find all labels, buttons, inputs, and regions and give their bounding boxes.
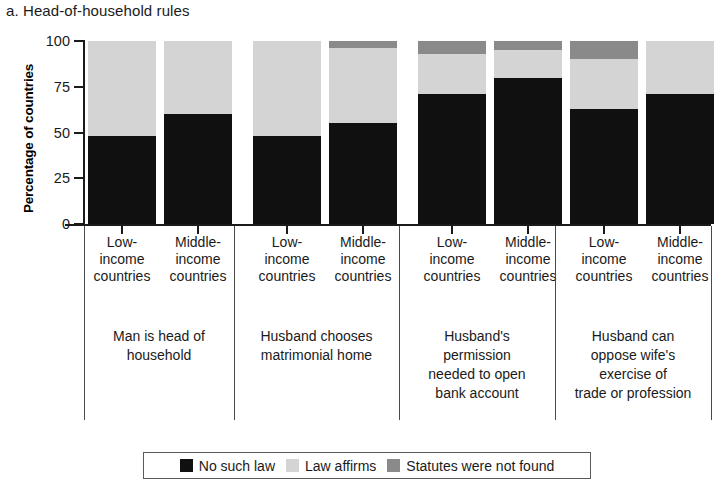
group-label: Husband'spermissionneeded to openbank ac… <box>392 327 562 403</box>
x-axis-category-label: Middle-incomecountries <box>313 234 413 285</box>
plot-area <box>84 41 711 224</box>
group-label-line: Husband can <box>548 327 718 346</box>
y-axis-tick-label: 100 <box>30 33 70 49</box>
bar-stack <box>88 41 156 224</box>
group-separator <box>399 226 400 420</box>
legend-swatch-icon <box>387 459 400 472</box>
group-label-line: trade or profession <box>548 384 718 403</box>
bar-segment-statutes-not-found <box>418 41 486 54</box>
legend-swatch-icon <box>286 459 299 472</box>
bar-segment-law-affirms <box>418 54 486 94</box>
x-axis-tick <box>197 226 199 234</box>
x-axis-category-label: Middle-incomecountries <box>148 234 248 285</box>
bar-segment-no-such-law <box>253 136 321 224</box>
bar-segment-no-such-law <box>164 114 232 224</box>
group-label-line: Man is head of <box>74 327 244 346</box>
y-axis-tick <box>74 223 84 225</box>
y-axis-tick-label: 0 <box>30 216 70 232</box>
bar-segment-no-such-law <box>418 94 486 224</box>
bar-segment-no-such-law <box>494 78 562 224</box>
bar-segment-law-affirms <box>164 41 232 114</box>
category-label-line: Middle- <box>148 234 248 251</box>
bar-segment-statutes-not-found <box>494 41 562 50</box>
group-label-line: matrimonial home <box>232 346 402 365</box>
x-axis-tick <box>121 226 123 234</box>
x-axis-tick <box>527 226 529 234</box>
bar-segment-no-such-law <box>570 109 638 224</box>
category-label-line: countries <box>148 268 248 285</box>
bar-segment-no-such-law <box>646 94 714 224</box>
legend-label: Law affirms <box>305 458 376 474</box>
bar-stack <box>646 41 714 224</box>
bar-segment-no-such-law <box>329 123 397 224</box>
y-axis-tick <box>74 132 84 134</box>
bar-segment-law-affirms <box>570 59 638 108</box>
y-axis-tick <box>74 177 84 179</box>
legend-item[interactable]: Statutes were not found <box>387 458 554 474</box>
bar-stack <box>494 41 562 224</box>
group-separator <box>711 226 712 420</box>
group-separator <box>555 226 556 420</box>
y-axis-tick-labels: 0255075100 <box>22 0 70 482</box>
category-label-line: countries <box>630 268 718 285</box>
x-axis-category-label: Middle-incomecountries <box>630 234 718 285</box>
bar-segment-law-affirms <box>253 41 321 136</box>
y-axis-tick-label: 75 <box>30 79 70 95</box>
bar-segment-law-affirms <box>494 50 562 77</box>
legend-label: Statutes were not found <box>406 458 554 474</box>
category-label-line: income <box>313 251 413 268</box>
legend-item[interactable]: No such law <box>180 458 275 474</box>
group-separator <box>234 226 235 420</box>
group-label-line: household <box>74 346 244 365</box>
category-label-line: income <box>148 251 248 268</box>
x-axis-tick <box>603 226 605 234</box>
category-label-line: Middle- <box>630 234 718 251</box>
x-axis-tick <box>451 226 453 234</box>
bar-stack <box>570 41 638 224</box>
y-axis-tick <box>74 40 84 42</box>
bar-segment-law-affirms <box>646 41 714 94</box>
category-label-line: income <box>630 251 718 268</box>
group-label: Husband choosesmatrimonial home <box>232 327 402 365</box>
group-label-line: Husband's <box>392 327 562 346</box>
group-separator <box>84 226 85 420</box>
y-axis-tick-label: 25 <box>30 170 70 186</box>
group-label: Man is head ofhousehold <box>74 327 244 365</box>
legend-item[interactable]: Law affirms <box>286 458 376 474</box>
bar-segment-no-such-law <box>88 136 156 224</box>
bar-stack <box>329 41 397 224</box>
bar-segment-statutes-not-found <box>570 41 638 59</box>
x-axis-tick <box>679 226 681 234</box>
bar-stack <box>418 41 486 224</box>
bar-stack <box>164 41 232 224</box>
bar-segment-statutes-not-found <box>329 41 397 48</box>
bar-stack <box>253 41 321 224</box>
y-axis-tick <box>74 86 84 88</box>
group-label-line: Husband chooses <box>232 327 402 346</box>
category-label-line: countries <box>313 268 413 285</box>
group-label-line: permission <box>392 346 562 365</box>
chart-legend: No such lawLaw affirmsStatutes were not … <box>143 452 591 479</box>
x-axis-line <box>65 224 711 226</box>
group-label: Husband canoppose wife'sexercise oftrade… <box>548 327 718 403</box>
bar-segment-law-affirms <box>88 41 156 136</box>
group-label-line: exercise of <box>548 365 718 384</box>
group-label-line: bank account <box>392 384 562 403</box>
legend-swatch-icon <box>180 459 193 472</box>
group-label-line: needed to open <box>392 365 562 384</box>
legend-label: No such law <box>199 458 275 474</box>
group-label-line: oppose wife's <box>548 346 718 365</box>
category-label-line: Middle- <box>313 234 413 251</box>
x-axis-tick <box>362 226 364 234</box>
bar-segment-law-affirms <box>329 48 397 123</box>
x-axis-tick <box>286 226 288 234</box>
y-axis-tick-label: 50 <box>30 125 70 141</box>
